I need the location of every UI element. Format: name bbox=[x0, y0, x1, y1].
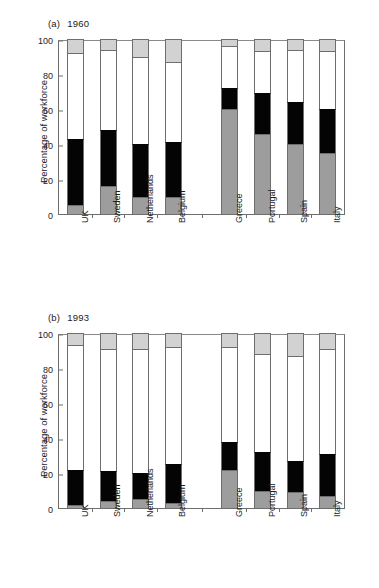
x-tick-mark-6 bbox=[311, 508, 312, 512]
y-tick-label-20: 20 bbox=[43, 176, 59, 186]
bar-spain bbox=[287, 333, 304, 508]
bar-segment-portugal-other bbox=[254, 39, 271, 51]
bar-segment-sweden-other bbox=[100, 39, 117, 50]
bar-spain bbox=[287, 39, 304, 214]
x-axis-label-spain: Spain bbox=[299, 200, 309, 223]
bar-segment-italy-other bbox=[319, 333, 336, 349]
x-tick-mark-2 bbox=[157, 508, 158, 512]
bar-segment-italy-agriculture bbox=[319, 153, 336, 214]
y-tick-label-80: 80 bbox=[43, 71, 59, 81]
plot-area-b: Percentage of workforce 020406080100UKSw… bbox=[58, 334, 345, 509]
bar-segment-spain-industry bbox=[287, 102, 304, 144]
y-tick-label-80: 80 bbox=[43, 365, 59, 375]
bar-segment-italy-industry bbox=[319, 454, 336, 496]
bar-segment-belgium-services bbox=[165, 347, 182, 464]
y-tick-label-0: 0 bbox=[48, 505, 59, 515]
x-axis-label-netherlands: Netherlands bbox=[145, 468, 155, 517]
panel-a-tag: (a) bbox=[48, 18, 60, 29]
bar-segment-uk-industry bbox=[67, 139, 84, 206]
bar-segment-uk-other bbox=[67, 39, 84, 53]
bar-segment-greece-other bbox=[221, 333, 238, 347]
bar-segment-uk-other bbox=[67, 333, 84, 345]
y-tick-label-20: 20 bbox=[43, 470, 59, 480]
y-tick-label-100: 100 bbox=[38, 330, 59, 340]
x-axis-label-greece: Greece bbox=[234, 487, 244, 517]
bar-segment-italy-industry bbox=[319, 109, 336, 153]
bar-segment-sweden-industry bbox=[100, 130, 117, 186]
y-tick-label-60: 60 bbox=[43, 400, 59, 410]
bar-segment-italy-services bbox=[319, 51, 336, 109]
bar-segment-belgium-other bbox=[165, 333, 182, 347]
x-tick-mark-3 bbox=[202, 214, 203, 218]
bar-greece bbox=[221, 333, 238, 508]
chart-panel-b: (b)1993 Percentage of workforce 02040608… bbox=[0, 294, 379, 588]
bar-portugal bbox=[254, 39, 271, 214]
x-axis-label-italy: Italy bbox=[332, 500, 342, 517]
y-tick-mark-40 bbox=[59, 146, 63, 147]
panel-b-tag: (b) bbox=[48, 312, 60, 323]
bar-segment-belgium-other bbox=[165, 39, 182, 62]
x-tick-mark-2 bbox=[157, 214, 158, 218]
bar-segment-spain-other bbox=[287, 39, 304, 50]
plot-area-a: Percentage of workforce 020406080100UKSw… bbox=[58, 40, 345, 215]
bar-segment-italy-services bbox=[319, 349, 336, 454]
x-tick-mark-0 bbox=[92, 508, 93, 512]
x-axis-label-italy: Italy bbox=[332, 206, 342, 223]
y-tick-label-40: 40 bbox=[43, 141, 59, 151]
x-axis-label-greece: Greece bbox=[234, 193, 244, 223]
bar-belgium bbox=[165, 333, 182, 508]
y-tick-mark-100 bbox=[59, 41, 63, 42]
bar-segment-belgium-services bbox=[165, 62, 182, 143]
chart-panel-a: (a)1960 Percentage of workforce 02040608… bbox=[0, 0, 379, 294]
y-tick-mark-60 bbox=[59, 405, 63, 406]
y-tick-label-60: 60 bbox=[43, 106, 59, 116]
y-tick-mark-80 bbox=[59, 76, 63, 77]
bar-segment-italy-other bbox=[319, 39, 336, 51]
x-tick-mark-3 bbox=[202, 508, 203, 512]
x-tick-mark-4 bbox=[246, 508, 247, 512]
x-axis-label-netherlands: Netherlands bbox=[145, 174, 155, 223]
x-axis-label-uk: UK bbox=[80, 210, 90, 223]
x-tick-mark-1 bbox=[124, 214, 125, 218]
bar-segment-uk-services bbox=[67, 53, 84, 139]
bar-segment-greece-other bbox=[221, 39, 238, 46]
x-axis-label-portugal: Portugal bbox=[267, 483, 277, 517]
x-tick-mark-0 bbox=[92, 214, 93, 218]
bar-segment-sweden-services bbox=[100, 50, 117, 131]
x-axis-label-uk: UK bbox=[80, 504, 90, 517]
bar-segment-netherlands-other bbox=[132, 333, 149, 349]
bar-segment-portugal-services bbox=[254, 354, 271, 452]
bar-sweden bbox=[100, 39, 117, 214]
y-tick-mark-60 bbox=[59, 111, 63, 112]
bar-segment-sweden-services bbox=[100, 349, 117, 472]
bar-segment-portugal-other bbox=[254, 333, 271, 354]
bar-segment-uk-services bbox=[67, 345, 84, 469]
y-tick-mark-20 bbox=[59, 475, 63, 476]
y-tick-label-40: 40 bbox=[43, 435, 59, 445]
bar-uk bbox=[67, 39, 84, 214]
x-tick-mark-5 bbox=[279, 508, 280, 512]
bar-greece bbox=[221, 39, 238, 214]
y-tick-mark-40 bbox=[59, 440, 63, 441]
x-axis-label-spain: Spain bbox=[299, 494, 309, 517]
panel-b-year: 1993 bbox=[67, 312, 89, 323]
bar-segment-spain-other bbox=[287, 333, 304, 356]
bar-segment-spain-services bbox=[287, 50, 304, 103]
bar-sweden bbox=[100, 333, 117, 508]
bar-italy bbox=[319, 333, 336, 508]
bar-segment-sweden-other bbox=[100, 333, 117, 349]
panel-a-title: (a)1960 bbox=[48, 18, 89, 29]
bar-segment-greece-services bbox=[221, 347, 238, 442]
bar-segment-netherlands-services bbox=[132, 349, 149, 473]
y-tick-mark-100 bbox=[59, 335, 63, 336]
x-axis-label-belgium: Belgium bbox=[177, 484, 187, 517]
x-tick-mark-5 bbox=[279, 214, 280, 218]
bar-belgium bbox=[165, 39, 182, 214]
x-tick-mark-4 bbox=[246, 214, 247, 218]
x-tick-mark-1 bbox=[124, 508, 125, 512]
bar-portugal bbox=[254, 333, 271, 508]
bar-segment-greece-services bbox=[221, 46, 238, 88]
x-tick-mark-6 bbox=[311, 214, 312, 218]
x-axis-label-sweden: Sweden bbox=[112, 484, 122, 517]
bar-uk bbox=[67, 333, 84, 508]
